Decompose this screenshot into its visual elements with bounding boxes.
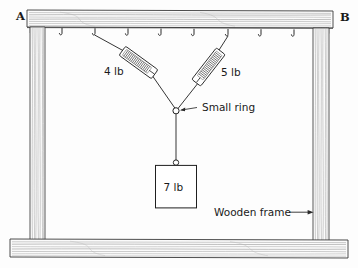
right-post — [313, 28, 329, 241]
ceiling-hook — [258, 30, 261, 36]
top-beam — [27, 10, 333, 34]
ceiling-hook — [191, 29, 194, 35]
ceiling-hook — [291, 30, 294, 36]
weight-hanger-ring — [173, 160, 178, 165]
right-scale-reading-label: 5 lb — [221, 66, 241, 78]
right-cord-lower — [178, 80, 201, 109]
small-ring — [173, 108, 179, 114]
ceiling-hook — [125, 29, 128, 35]
left-cord-upper — [95, 35, 127, 52]
physics-diagram: A B 4 lb 5 lb Small ring 7 lb Wooden fra… — [0, 0, 358, 268]
ceiling-hook — [225, 29, 228, 35]
ceiling-hook — [92, 29, 95, 35]
ceiling-hook — [59, 28, 62, 34]
small-ring-arrowhead — [180, 108, 185, 112]
left-cord-lower — [151, 73, 176, 109]
left-spring-scale — [119, 46, 158, 79]
left-scale-reading-label: 4 lb — [104, 65, 124, 77]
corner-label-b: B — [340, 10, 350, 24]
diagram-canvas: A B 4 lb 5 lb Small ring 7 lb Wooden fra… — [0, 0, 358, 268]
bottom-beam — [10, 239, 348, 258]
wooden-frame-leader — [289, 210, 314, 215]
ceiling-hook — [158, 29, 161, 35]
cords — [95, 35, 228, 160]
left-post — [30, 27, 45, 240]
hanging-weight-label: 7 lb — [164, 181, 184, 193]
small-ring-label: Small ring — [202, 101, 255, 113]
corner-label-a: A — [15, 9, 26, 23]
wooden-frame-label: Wooden frame — [214, 206, 291, 218]
